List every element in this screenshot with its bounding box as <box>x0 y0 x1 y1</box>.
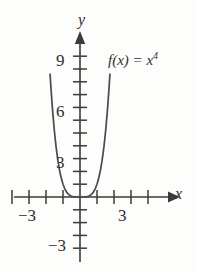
y-tick-label-neg3: −3 <box>48 237 66 254</box>
graph-figure: 9 6 3 −3 −3 3 y x f(x) = x4 <box>0 0 198 273</box>
y-tick-label-6: 6 <box>56 103 65 120</box>
x-axis-label: x <box>175 186 182 202</box>
function-annotation-text: f(x) = x <box>108 52 153 68</box>
y-axis-label: y <box>78 12 85 28</box>
function-annotation-exponent: 4 <box>153 50 158 61</box>
y-axis-arrow-icon <box>75 31 85 44</box>
function-annotation: f(x) = x4 <box>108 51 158 68</box>
y-tick-label-9: 9 <box>56 52 65 69</box>
x-tick-label-3: 3 <box>118 207 127 224</box>
coordinate-plane <box>0 0 198 273</box>
x-tick-label-neg3: −3 <box>18 207 36 224</box>
y-tick-label-3: 3 <box>56 154 65 171</box>
